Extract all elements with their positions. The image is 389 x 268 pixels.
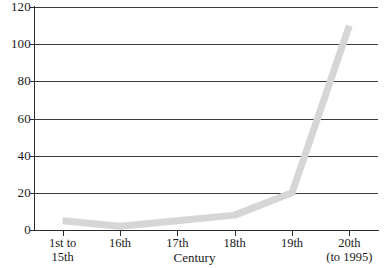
x-tick-label-line1: 19th (281, 236, 303, 250)
y-tick-label: 80 (1, 74, 31, 87)
x-axis-line (34, 230, 379, 231)
x-tick-label-line1: 17th (166, 236, 188, 250)
x-tick-label-line1: 18th (224, 236, 246, 250)
y-tick-label: 60 (1, 112, 31, 125)
data-series-line (34, 7, 378, 230)
y-tick-label: 20 (1, 186, 31, 199)
y-axis-labels: 020406080100120 (0, 0, 31, 268)
y-tick-label: 40 (1, 149, 31, 162)
x-tick-label-line1: 16th (109, 236, 131, 250)
line-chart: 020406080100120 1st to15th16th17th18th19… (0, 0, 389, 268)
y-tick-label: 120 (1, 0, 31, 13)
x-axis-title: Century (0, 250, 389, 265)
y-tick-label: 100 (1, 37, 31, 50)
x-tick-label-line1: 1st to (49, 236, 76, 250)
x-tick-label-line1: 20th (338, 236, 360, 250)
y-tick-label: 0 (1, 223, 31, 236)
